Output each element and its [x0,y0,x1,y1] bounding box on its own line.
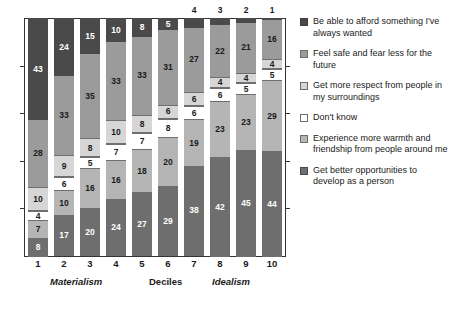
legend-swatch-icon [300,167,308,175]
x-axis-tick-labels: 12345678910 [25,258,285,269]
segment-value-label: 17 [59,231,68,240]
bar-segment: 4 [28,211,48,222]
bar-column: 432810478 [25,18,51,256]
bar-segment: 27 [184,28,204,92]
bar-segment: 4 [184,18,204,28]
y-axis-right-line [285,18,286,256]
legend-item[interactable]: Feel safe and fear less for the future [300,48,448,71]
segment-value-label: 23 [215,125,224,134]
y-axis-tick-right [286,113,290,114]
x-tick-label: 5 [129,258,155,269]
bar-segment: 35 [80,54,100,138]
segment-value-label: 4 [36,212,41,221]
segment-value-label: 4 [270,60,275,69]
segment-value-label: 10 [111,128,120,137]
segment-value-label: 5 [88,159,93,168]
segment-value-label: 15 [85,32,94,41]
segment-value-label: 19 [189,139,198,148]
stacked-bar[interactable]: 427661938 [184,18,204,256]
bar-segment: 16 [262,20,282,58]
legend-label: Feel safe and fear less for the future [313,48,448,71]
segment-value-label: 6 [62,180,67,189]
bar-segment: 8 [28,238,48,257]
chart-legend: Be able to afford something I've always … [300,16,448,197]
segment-value-label: 24 [59,43,68,52]
bar-segment: 20 [158,138,178,186]
y-axis-tick [20,208,24,209]
bar-segment: 9 [54,155,74,177]
stacked-bar[interactable]: 116452944 [262,18,282,256]
y-axis-tick [20,161,24,162]
bar-segment: 6 [184,106,204,120]
legend-swatch-icon [300,18,308,26]
segment-value-label: 45 [241,199,250,208]
stacked-bar[interactable]: 531682029 [158,18,178,256]
bar-segment: 15 [80,18,100,54]
legend-swatch-icon [300,50,308,58]
x-tick-label: 10 [259,258,285,269]
x-group-label-deciles: Deciles [149,276,182,287]
bar-segment: 3 [210,18,230,25]
bar-segment: 33 [132,37,152,115]
legend-item[interactable]: Don't know [300,112,448,124]
segment-value-label: 20 [85,228,94,237]
segment-value-label: 16 [111,176,120,185]
segment-value-label: 16 [85,184,94,193]
bar-segment: 38 [184,166,204,256]
segment-value-label: 10 [111,26,120,35]
segment-value-label: 8 [36,243,41,252]
segment-value-label: 4 [218,78,223,87]
segment-value-label: 27 [189,55,198,64]
bar-column: 427661938 [181,18,207,256]
legend-label: Experience more warmth and friendship fr… [313,133,448,156]
stacked-bar[interactable]: 10331071624 [106,18,126,256]
segment-value-label: 33 [59,111,68,120]
bar-column: 531682029 [155,18,181,256]
y-axis-tick-right [286,161,290,162]
legend-swatch-icon [300,114,308,122]
bar-segment: 8 [132,115,152,134]
bar-segment: 23 [210,102,230,157]
legend-item[interactable]: Be able to afford something I've always … [300,16,448,39]
segment-value-label: 8 [166,124,171,133]
bar-segment: 10 [28,187,48,211]
bar-segment: 5 [262,69,282,81]
segment-value-label: 33 [111,77,120,86]
bar-segment: 29 [262,81,282,151]
bar-segment: 16 [80,169,100,207]
stacked-bar[interactable]: 432810478 [28,18,48,256]
bar-segment: 33 [106,42,126,121]
legend-item[interactable]: Get better opportunities to develop as a… [300,165,448,188]
legend-item[interactable]: Experience more warmth and friendship fr… [300,133,448,156]
bar-segment: 43 [28,18,48,120]
bar-segment: 20 [80,208,100,256]
stacked-bar[interactable]: 1535851620 [80,18,100,256]
bar-segment: 19 [184,120,204,165]
segment-value-label: 35 [85,92,94,101]
segment-value-label: 22 [215,47,224,56]
bar-segment: 8 [132,18,152,37]
legend-swatch-icon [300,82,308,90]
segment-value-label: 21 [241,43,250,52]
bar-segment: 7 [106,144,126,161]
stacked-bar[interactable]: 833871827 [132,18,152,256]
segment-value-label: 7 [114,148,119,157]
legend-item[interactable]: Get more respect from people in my surro… [300,80,448,103]
x-tick-label: 3 [77,258,103,269]
stacked-bar[interactable]: 2433961017 [54,18,74,256]
x-tick-label: 8 [207,258,233,269]
y-axis-tick-right [286,208,290,209]
y-axis-tick-right [286,66,290,67]
bar-segment: 6 [54,177,74,191]
segment-value-label: 42 [215,203,224,212]
bar-segment: 6 [210,88,230,102]
segment-value-label: 31 [163,63,172,72]
segment-value-label: 23 [241,118,250,127]
segment-value-label: 6 [192,109,197,118]
segment-value-label: 7 [140,137,145,146]
stacked-bar[interactable]: 322462342 [210,18,230,256]
legend-label: Get more respect from people in my surro… [313,80,448,103]
stacked-bar[interactable]: 221452345 [236,18,256,256]
bar-segment: 8 [158,119,178,138]
bar-segment: 44 [262,151,282,257]
